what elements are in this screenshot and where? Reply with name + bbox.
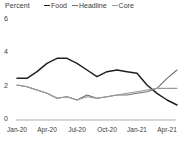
series-line-headline bbox=[17, 70, 177, 100]
plot-area bbox=[0, 0, 179, 145]
series-line-core bbox=[17, 85, 177, 100]
series-lines bbox=[17, 58, 177, 105]
line-chart: Percent Food Headline Core 0246 Jan-20Ap… bbox=[0, 0, 179, 145]
